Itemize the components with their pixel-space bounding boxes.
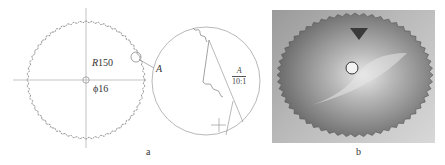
detail-scale-name: A xyxy=(232,67,246,77)
detail-tooth-profile-top xyxy=(193,28,207,42)
figure: R150 ϕ16 A A 10:1 a b xyxy=(0,0,445,165)
detail-scale-label: A 10:1 xyxy=(232,67,246,86)
photo-render xyxy=(272,10,435,143)
detail-scale-ratio: 10:1 xyxy=(232,77,246,86)
detail-tooth-flank xyxy=(203,40,223,97)
detail-marker-label: A xyxy=(156,64,162,74)
detail-leader-line xyxy=(140,60,154,68)
saw-blade-photo xyxy=(272,10,435,143)
caption-b: b xyxy=(356,147,361,157)
radius-label: R150 xyxy=(92,58,113,68)
caption-a: a xyxy=(146,147,150,157)
bore-diameter-label: ϕ16 xyxy=(93,84,108,94)
photo-center-hole xyxy=(346,62,358,74)
